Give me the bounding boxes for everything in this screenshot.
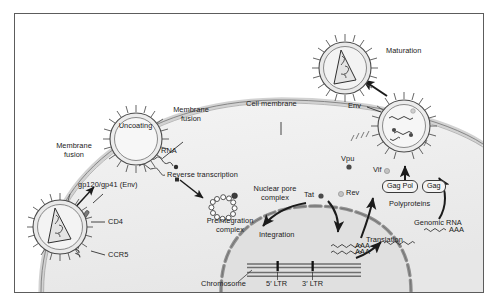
label-reverse-transcription: Reverse transcription bbox=[167, 171, 238, 180]
vpu-protein-dot bbox=[346, 164, 351, 169]
label-chromosome: Chromosome bbox=[201, 280, 246, 289]
ltr5-marker bbox=[277, 261, 279, 271]
vif-protein-dot bbox=[384, 168, 389, 173]
label-cd4: CD4 bbox=[108, 218, 123, 227]
label-3-ltr: 3′ LTR bbox=[302, 280, 323, 289]
label-tat: Tat bbox=[304, 191, 314, 200]
label-maturation: Maturation bbox=[386, 47, 421, 56]
label-gp120-gp41: gp120/gp41 (Env) bbox=[78, 181, 138, 190]
label-vif: Vif bbox=[373, 166, 382, 175]
hiv-replication-cycle-figure: Membrane fusion Membrane fusion Cell mem… bbox=[0, 0, 497, 307]
label-uncoating: Uncoating bbox=[98, 122, 173, 131]
label-translation: Translation bbox=[366, 236, 403, 245]
label-vpu: Vpu bbox=[341, 155, 354, 164]
label-ccr5: CCR5 bbox=[108, 251, 128, 260]
label-rev: Rev bbox=[346, 189, 359, 198]
rna-end-dot bbox=[174, 165, 178, 169]
label-mrna-tail-3: AAA bbox=[449, 226, 464, 235]
label-membrane-fusion-right: Membrane fusion bbox=[160, 106, 222, 123]
rev-protein-dot bbox=[338, 191, 343, 196]
label-mrna-tail-2: AAA bbox=[355, 248, 370, 257]
label-polyproteins: Polyproteins bbox=[389, 200, 430, 209]
label-membrane-fusion-left: Membrane fusion bbox=[45, 142, 103, 159]
label-gag: Gag bbox=[422, 180, 446, 193]
mature-virion-shape bbox=[312, 34, 378, 102]
ltr3-marker bbox=[312, 261, 314, 271]
label-nuclear-pore-complex: Nuclear pore complex bbox=[239, 185, 311, 202]
tat-protein-dot bbox=[318, 193, 323, 198]
label-integration: Integration bbox=[259, 231, 294, 240]
label-env: Env bbox=[348, 102, 361, 111]
label-rna: RNA bbox=[161, 147, 177, 156]
label-5-ltr: 5′ LTR bbox=[266, 280, 287, 289]
figure-frame: Membrane fusion Membrane fusion Cell mem… bbox=[14, 13, 484, 293]
label-gag-pol: Gag Pol bbox=[382, 180, 418, 193]
label-cell-membrane: Cell membrane bbox=[246, 100, 297, 109]
